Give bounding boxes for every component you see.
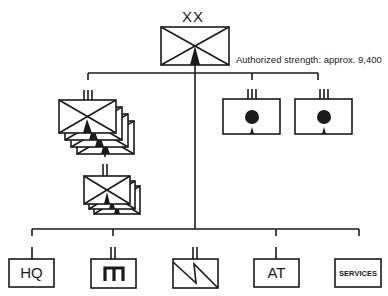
echelon-marks-battalion bbox=[103, 164, 107, 176]
support-signal bbox=[173, 247, 218, 288]
support-engineer bbox=[91, 247, 136, 288]
artillery-icon bbox=[245, 110, 259, 124]
regiment-stack bbox=[59, 90, 134, 154]
battalion-symbol-front bbox=[84, 176, 130, 204]
echelon-marks-regiment bbox=[84, 90, 92, 100]
authorized-strength-note: Authorized strength: approx. 9,400 bbox=[236, 54, 382, 65]
regiment-symbol-front bbox=[59, 100, 116, 133]
division-echelon: XX bbox=[182, 8, 204, 25]
support-label-services: SERVICES bbox=[335, 269, 381, 278]
artillery-regiment-1 bbox=[223, 89, 280, 134]
support-label-hq: HQ bbox=[9, 264, 54, 281]
support-label-at: AT bbox=[254, 264, 299, 281]
artillery-regiment-2 bbox=[295, 89, 352, 134]
division-symbol bbox=[161, 27, 229, 65]
battalion-stack bbox=[84, 164, 140, 214]
artillery-icon bbox=[317, 110, 331, 124]
org-chart bbox=[0, 0, 388, 296]
